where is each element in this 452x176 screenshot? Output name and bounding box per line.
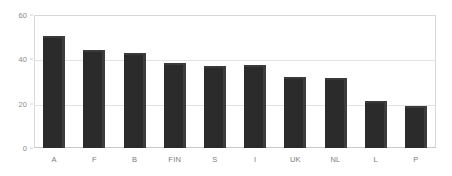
y-tick-mark-40 <box>30 59 33 60</box>
x-tick-label-F: F <box>92 155 97 164</box>
bar-UK[interactable] <box>284 15 306 148</box>
x-tick-label-B: B <box>132 155 137 164</box>
bar-rect-UK[interactable] <box>284 77 306 148</box>
x-tick-label-P: P <box>413 155 418 164</box>
y-tick-mark-60 <box>30 15 33 16</box>
x-axis: AFBFINSIUKNLLP <box>34 152 436 172</box>
bar-rect-A[interactable] <box>43 36 65 148</box>
bar-S[interactable] <box>204 15 226 148</box>
bar-rect-NL[interactable] <box>325 78 347 148</box>
bar-rect-L[interactable] <box>365 101 387 148</box>
x-tick-label-FIN: FIN <box>168 155 181 164</box>
bar-I[interactable] <box>244 15 266 148</box>
y-tick-label-0: 0 <box>23 144 27 153</box>
bar-chart-figure: 0204060 AFBFINSIUKNLLP <box>0 0 452 176</box>
bar-FIN[interactable] <box>164 15 186 148</box>
x-tick-label-UK: UK <box>290 155 301 164</box>
bar-rect-F[interactable] <box>83 50 105 148</box>
bar-A[interactable] <box>43 15 65 148</box>
bar-L[interactable] <box>365 15 387 148</box>
y-tick-label-20: 20 <box>18 99 27 108</box>
bar-rect-FIN[interactable] <box>164 63 186 148</box>
x-tick-label-S: S <box>212 155 217 164</box>
y-tick-label-60: 60 <box>18 11 27 20</box>
bar-F[interactable] <box>83 15 105 148</box>
y-tick-label-40: 40 <box>18 55 27 64</box>
y-tick-mark-20 <box>30 103 33 104</box>
y-axis: 0204060 <box>0 0 34 176</box>
x-tick-label-I: I <box>254 155 256 164</box>
bar-rect-B[interactable] <box>124 53 146 148</box>
bar-rect-I[interactable] <box>244 65 266 148</box>
bar-NL[interactable] <box>325 15 347 148</box>
bar-B[interactable] <box>124 15 146 148</box>
x-tick-label-L: L <box>374 155 378 164</box>
bar-rect-S[interactable] <box>204 66 226 148</box>
bars-layer <box>34 15 436 148</box>
y-tick-mark-0 <box>30 148 33 149</box>
bar-P[interactable] <box>405 15 427 148</box>
x-tick-label-NL: NL <box>331 155 341 164</box>
x-tick-label-A: A <box>51 155 56 164</box>
bar-rect-P[interactable] <box>405 106 427 148</box>
